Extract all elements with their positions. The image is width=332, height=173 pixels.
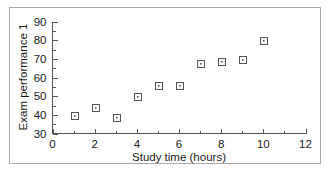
x-tick-label: 10 <box>257 138 270 150</box>
y-tick-label: 30 <box>34 128 47 140</box>
data-point-markers <box>71 37 267 121</box>
data-point <box>92 104 99 111</box>
axes-group <box>53 22 306 134</box>
x-tick-label: 0 <box>49 138 55 150</box>
data-point <box>155 82 162 89</box>
scatter-plot-figure: 30405060708090 024681012 Study time (hou… <box>0 0 332 173</box>
x-axis-tick-labels: 024681012 <box>49 138 312 150</box>
x-tick-label: 4 <box>134 138 141 150</box>
marker-center-dot <box>179 85 181 87</box>
y-axis-title: Exam performance 1 <box>17 24 29 131</box>
data-point <box>176 82 183 89</box>
chart-canvas: 30405060708090 024681012 Study time (hou… <box>0 0 332 173</box>
y-tick-label: 80 <box>34 34 47 46</box>
data-point <box>113 114 120 121</box>
data-point <box>239 56 246 63</box>
marker-center-dot <box>116 117 118 119</box>
marker-center-dot <box>158 85 160 87</box>
x-tick-label: 12 <box>299 138 312 150</box>
data-point <box>260 37 267 44</box>
x-tick-label: 6 <box>176 138 182 150</box>
y-tick-label: 40 <box>34 109 47 121</box>
y-axis-tick-labels: 30405060708090 <box>34 16 47 140</box>
x-axis-ticks <box>54 129 307 134</box>
y-axis-ticks <box>53 23 58 135</box>
y-tick-label: 50 <box>34 90 47 102</box>
marker-center-dot <box>263 40 265 42</box>
data-point <box>134 93 141 100</box>
marker-center-dot <box>95 107 97 109</box>
y-tick-label: 60 <box>34 72 47 84</box>
marker-center-dot <box>221 61 223 63</box>
x-tick-label: 8 <box>218 138 224 150</box>
marker-center-dot <box>137 96 139 98</box>
data-point <box>197 60 204 67</box>
data-point <box>71 112 78 119</box>
x-tick-label: 2 <box>91 138 97 150</box>
data-point <box>218 58 225 65</box>
y-tick-label: 70 <box>34 53 47 65</box>
y-tick-label: 90 <box>34 16 47 28</box>
marker-center-dot <box>242 59 244 61</box>
marker-center-dot <box>200 63 202 65</box>
marker-center-dot <box>74 115 76 117</box>
x-axis-title: Study time (hours) <box>132 151 226 163</box>
